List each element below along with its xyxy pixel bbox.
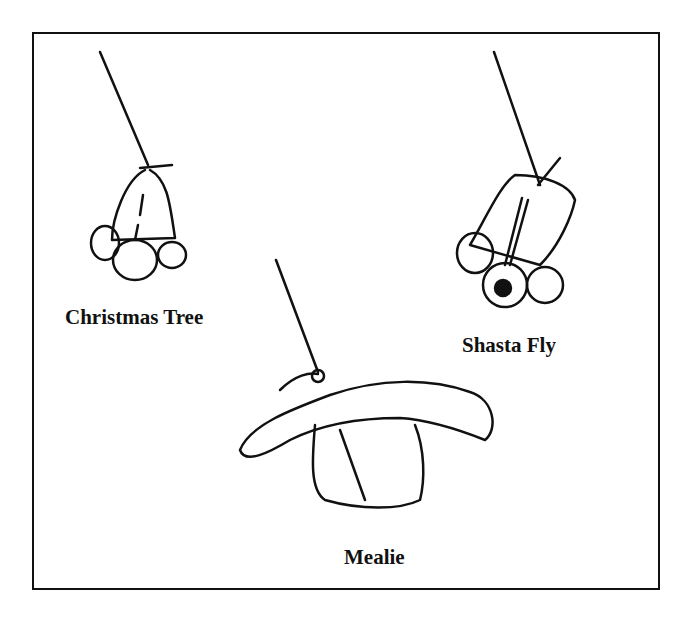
shasta-fly-icon xyxy=(457,52,575,307)
christmas-tree-label: Christmas Tree xyxy=(65,305,203,330)
mealie-fly-icon xyxy=(240,260,493,508)
mealie-label: Mealie xyxy=(344,545,405,570)
shasta-fly-label: Shasta Fly xyxy=(462,333,556,358)
christmas-tree-fly-icon xyxy=(91,52,186,280)
